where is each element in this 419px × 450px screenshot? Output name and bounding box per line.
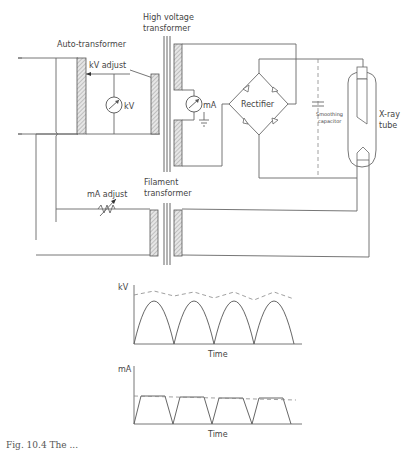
filament-transformer [36,203,182,265]
ma-waveform-chart: mA Time [118,365,302,439]
xray-tube [348,59,376,167]
kv-time-label: Time [207,350,228,359]
filament-transformer-label-2: transformer [144,189,192,198]
kv-axis-label: kV [118,283,129,292]
xray-tube-label-1: X-ray [379,110,400,119]
auto-transformer [36,58,86,240]
hv-primary-circuit [86,74,160,134]
ma-meter [186,96,202,112]
kv-adjust-slider [86,70,153,78]
ma-adjust-resistor [98,199,116,216]
kv-meter [106,97,122,113]
xray-circuit-diagram: Auto-transformer kV adjust kV High volta… [0,0,419,450]
ma-meter-label: mA [203,101,217,110]
xray-tube-label-2: tube [379,121,397,130]
ma-axis-label: mA [118,365,132,374]
mains-input [18,58,78,134]
hv-transformer-label-2: transformer [143,24,191,33]
figure-caption: Fig. 10.4 The ... [6,440,78,450]
kv-meter-label: kV [124,102,135,111]
ground-icon [199,112,209,126]
filament-transformer-label-1: Filament [144,178,178,187]
auto-transformer-label: Auto-transformer [57,40,127,49]
rectifier-label: Rectifier [241,100,275,109]
filament-wiring [182,160,369,257]
hv-transformer-core [164,36,170,172]
ma-time-label: Time [207,430,228,439]
smoothing-label-2: capacitor [318,118,342,125]
hv-transformer-label-1: High voltage [143,13,194,22]
kv-adjust-label: kV adjust [89,61,126,70]
smoothing-label-1: Smoothing [316,111,343,118]
ma-adjust-label: mA adjust [87,190,127,199]
kv-waveform-chart: kV Time [118,283,302,359]
